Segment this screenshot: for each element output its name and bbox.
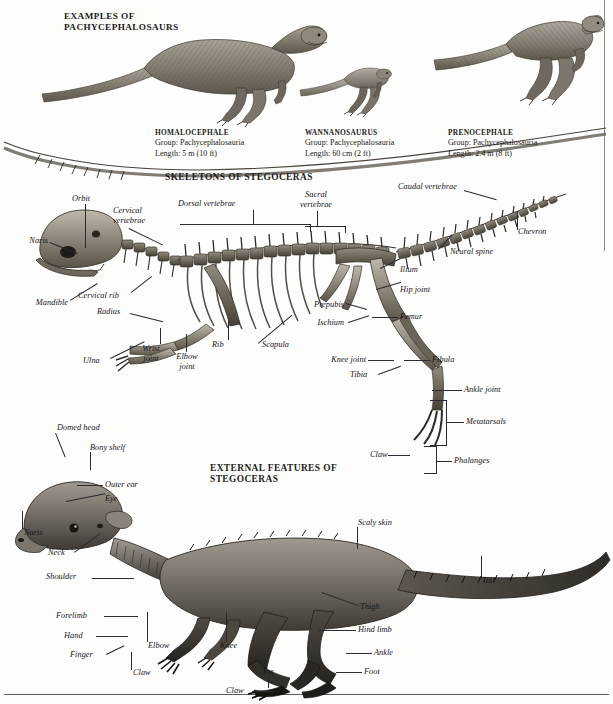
label-claw-skeleton: Claw bbox=[370, 450, 388, 460]
label-hind-limb: Hind limb bbox=[358, 625, 392, 635]
bracket-metatarsals bbox=[430, 400, 447, 446]
leader-ankle bbox=[346, 653, 372, 654]
label-ankle-joint: Ankle joint bbox=[464, 385, 501, 395]
leader-hind-limb bbox=[318, 630, 356, 631]
leader-elbow bbox=[147, 612, 148, 642]
specimen-length: Length: 2.4 m (8 ft) bbox=[448, 149, 537, 159]
label-hand: Hand bbox=[64, 631, 83, 641]
label-domed-head: Domed head bbox=[57, 423, 100, 433]
label-ankle: Ankle bbox=[374, 648, 393, 658]
label-ilium: Ilium bbox=[400, 265, 418, 275]
label-scapula: Scapula bbox=[262, 340, 289, 350]
leader-shoulder bbox=[92, 578, 134, 579]
label-claw-hand: Claw bbox=[133, 668, 151, 678]
encyclopedia-page: EXAMPLES OF PACHYCEPHALOSAURS SKELETONS … bbox=[0, 0, 613, 704]
specimen-caption-prenocephale: PRENOCEPHALE Group: Pachycephalosauria L… bbox=[448, 128, 537, 159]
leader-tail bbox=[481, 556, 482, 578]
label-chevron: Chevron bbox=[518, 227, 547, 237]
label-tibia: Tibia bbox=[350, 370, 367, 380]
leader-claw-foot bbox=[252, 691, 274, 692]
label-ulna: Ulna bbox=[83, 356, 100, 366]
leader-scaly-skin bbox=[357, 527, 358, 549]
label-hip-joint: Hip joint bbox=[400, 285, 430, 295]
bracket-phalanges bbox=[424, 446, 437, 474]
label-metatarsals: Metatarsals bbox=[466, 417, 506, 427]
specimen-name: PRENOCEPHALE bbox=[448, 128, 537, 138]
specimen-length: Length: 5 m (10 ft) bbox=[155, 149, 244, 159]
specimen-caption-wannanosaurus: WANNANOSAURUS Group: Pachycephalosauria … bbox=[305, 128, 394, 159]
leader-naris-external bbox=[22, 511, 23, 529]
label-prepubis: Prepubis bbox=[296, 300, 344, 310]
leader-outer-ear bbox=[77, 485, 103, 486]
label-finger: Finger bbox=[70, 650, 93, 660]
leader-toe bbox=[268, 676, 269, 688]
bracket-sacral-vertebrae bbox=[305, 226, 346, 233]
specimen-group: Group: Pachycephalosauria bbox=[155, 138, 244, 148]
label-outer-ear: Outer ear bbox=[105, 480, 138, 490]
leader-forelimb bbox=[104, 616, 138, 617]
label-fibula: Fibula bbox=[432, 355, 454, 365]
leader-hand bbox=[96, 636, 128, 637]
label-bony-shelf: Bony shelf bbox=[90, 443, 125, 453]
leader-orbit bbox=[85, 204, 86, 248]
section-heading-examples: EXAMPLES OF PACHYCEPHALOSAURS bbox=[64, 11, 179, 34]
label-femur: Femur bbox=[400, 312, 422, 322]
label-rib: Rib bbox=[212, 340, 224, 350]
label-neural-spine: Neural spine bbox=[450, 247, 493, 257]
leader-sacral-vertebrae bbox=[317, 211, 318, 226]
leader-ankle-joint bbox=[432, 390, 462, 391]
leader-chevron bbox=[517, 212, 518, 230]
label-caudal-vertebrae: Caudal vertebrae bbox=[398, 182, 457, 192]
section-heading-skeletons: SKELETONS OF STEGOCERAS bbox=[165, 172, 313, 183]
label-dorsal-vertebrae: Dorsal vertebrae bbox=[178, 199, 236, 209]
label-foot: Foot bbox=[364, 667, 380, 677]
label-radius: Radius bbox=[97, 307, 120, 317]
prenocephale-illustration bbox=[432, 8, 604, 126]
leader-femur bbox=[372, 317, 398, 318]
label-naris-skeleton: Naris bbox=[4, 236, 48, 246]
label-orbit: Orbit bbox=[72, 194, 90, 204]
label-cervical-vertebrae: Cervical vertebrae bbox=[113, 206, 145, 225]
label-knee: Knee bbox=[220, 641, 237, 651]
label-sacral-vertebrae: Sacral vertebrae bbox=[286, 190, 346, 209]
section-heading-external: EXTERNAL FEATURES OF STEGOCERAS bbox=[210, 463, 337, 486]
label-forelimb: Forelimb bbox=[56, 611, 87, 621]
leader-rib bbox=[228, 320, 229, 340]
label-naris-external: Naris bbox=[24, 528, 43, 538]
bracket-dorsal-vertebrae bbox=[180, 224, 311, 232]
leader-foot bbox=[336, 672, 362, 673]
label-elbow: Elbow bbox=[148, 641, 169, 651]
label-ischium: Ischium bbox=[298, 318, 344, 328]
label-cervical-rib: Cervical rib bbox=[78, 291, 119, 301]
label-mandible: Mandible bbox=[12, 298, 68, 308]
leader-knee-joint bbox=[368, 360, 394, 361]
label-neck: Neck bbox=[48, 548, 65, 558]
label-eye: Eye bbox=[105, 494, 118, 504]
specimen-caption-homalocephale: HOMALOCEPHALE Group: Pachycephalosauria … bbox=[155, 128, 244, 159]
leader-bony-shelf bbox=[90, 452, 91, 470]
label-scaly-skin: Scaly skin bbox=[358, 518, 392, 528]
label-phalanges: Phalanges bbox=[454, 456, 489, 466]
leader-phalanges bbox=[436, 461, 452, 462]
label-thigh: Thigh bbox=[360, 602, 380, 612]
specimen-length: Length: 60 cm (2 ft) bbox=[305, 149, 394, 159]
label-claw-foot: Claw bbox=[226, 686, 244, 696]
label-knee-joint: Knee joint bbox=[310, 355, 366, 365]
specimen-name: HOMALOCEPHALE bbox=[155, 128, 244, 138]
specimen-group: Group: Pachycephalosauria bbox=[448, 138, 537, 148]
leader-fibula bbox=[404, 360, 430, 361]
leader-wrist-joint bbox=[160, 328, 161, 344]
leader-metatarsals bbox=[446, 422, 464, 423]
label-elbow-joint: Elbow joint bbox=[170, 352, 204, 371]
stegoceras-external-illustration bbox=[14, 470, 610, 695]
specimen-name: WANNANOSAURUS bbox=[305, 128, 394, 138]
leader-elbow-joint bbox=[186, 334, 187, 352]
label-wrist-joint: Wrist joint bbox=[134, 344, 168, 363]
leader-claw-skeleton bbox=[388, 455, 410, 456]
specimen-group: Group: Pachycephalosauria bbox=[305, 138, 394, 148]
leader-knee bbox=[226, 612, 227, 642]
leader-claw-hand bbox=[131, 652, 132, 670]
label-shoulder: Shoulder bbox=[46, 572, 76, 582]
label-tail: Tail bbox=[482, 576, 495, 586]
leader-dorsal-vertebrae bbox=[253, 210, 254, 225]
